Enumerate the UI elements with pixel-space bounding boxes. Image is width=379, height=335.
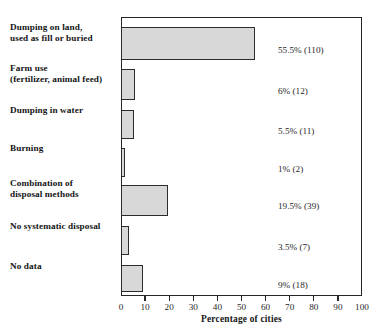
category-label: No data (10, 261, 118, 272)
bar (121, 27, 255, 60)
bars-layer (121, 17, 362, 296)
category-label-line: used as fill or buried (10, 33, 118, 44)
bar (121, 265, 143, 292)
bar-value-label: 1% (2) (278, 164, 303, 175)
category-label-line: Burning (10, 143, 118, 154)
bar-chart: Dumping on land,used as fill or buriedFa… (0, 0, 379, 335)
bar (121, 148, 125, 177)
category-label-line: No data (10, 261, 118, 272)
category-label: Farm use(fertilizer, animal feed) (10, 63, 118, 85)
category-label-line: Dumping on land, (10, 22, 118, 33)
category-label-line: Combination of (10, 178, 118, 189)
category-label-line: Farm use (10, 63, 118, 74)
category-label-line: disposal methods (10, 189, 118, 200)
bar (121, 226, 129, 255)
x-axis-title: Percentage of cities (121, 314, 362, 324)
category-label: Dumping on land,used as fill or buried (10, 22, 118, 44)
category-label: No systematic disposal (10, 221, 118, 232)
bar-value-label: 9% (18) (278, 280, 308, 291)
category-label-line: (fertilizer, animal feed) (10, 74, 118, 85)
bar-value-label: 5.5% (11) (278, 126, 314, 137)
x-axis-tick-label: 100 (347, 301, 377, 313)
category-label-column: Dumping on land,used as fill or buriedFa… (0, 0, 118, 300)
category-label-line: No systematic disposal (10, 221, 118, 232)
category-label: Combination ofdisposal methods (10, 178, 118, 200)
bar (121, 110, 134, 139)
bar (121, 185, 168, 216)
bar (121, 69, 135, 100)
bar-value-label: 3.5% (7) (278, 242, 310, 253)
bar-value-label: 19.5% (39) (278, 201, 319, 212)
category-label: Dumping in water (10, 105, 118, 116)
bar-value-label: 55.5% (110) (278, 45, 324, 56)
category-label-line: Dumping in water (10, 105, 118, 116)
category-label: Burning (10, 143, 118, 154)
bar-value-label: 6% (12) (278, 86, 308, 97)
